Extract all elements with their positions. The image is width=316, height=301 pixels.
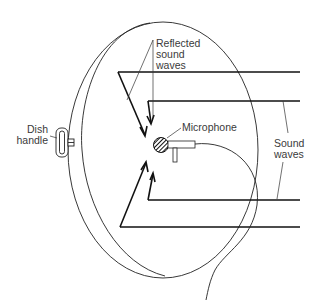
incoming-sound-waves — [118, 72, 300, 227]
microphone-cable — [195, 144, 258, 300]
dish-handle — [56, 128, 74, 157]
dish-handle-label: Dish handle — [16, 124, 48, 146]
microphone-label-leader — [167, 128, 181, 138]
reflected-sound-waves — [118, 72, 155, 227]
microphone — [154, 138, 196, 163]
microphone-label: Microphone — [182, 122, 237, 133]
reflected-sound-waves-label: Reflected sound waves — [156, 38, 200, 71]
sound-waves-label: Sound waves — [274, 138, 304, 160]
